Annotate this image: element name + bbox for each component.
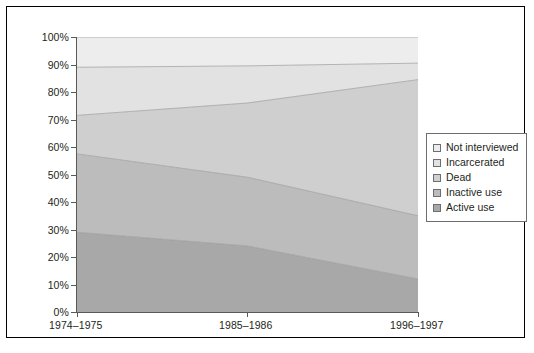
y-tick-label: 30% [29, 225, 69, 235]
legend-swatch-icon [433, 159, 441, 167]
legend-item-not-interviewed[interactable]: Not interviewed [433, 140, 518, 155]
x-tick-label: 1974–1975 [49, 319, 102, 331]
x-tick-label: 1985–1986 [219, 319, 272, 331]
legend-item-label: Dead [446, 172, 471, 183]
legend-swatch-icon [433, 144, 441, 152]
y-tick-mark [71, 312, 76, 313]
y-tick-mark [71, 120, 76, 121]
legend-item-label: Incarcerated [446, 157, 504, 168]
legend-item-label: Not interviewed [446, 142, 518, 153]
legend-item-incarcerated[interactable]: Incarcerated [433, 155, 518, 170]
stacked-area-svg [77, 37, 418, 312]
y-tick-mark [71, 230, 76, 231]
y-tick-mark [71, 65, 76, 66]
y-tick-label: 50% [29, 170, 69, 180]
x-tick-mark [247, 312, 248, 317]
y-tick-label: 100% [29, 32, 69, 42]
chart-figure: 100% 90% 80% 70% 60% 50% 40% 30% 20% 10%… [0, 0, 534, 353]
y-tick-mark [71, 202, 76, 203]
y-tick-label: 10% [29, 280, 69, 290]
chart-frame: 100% 90% 80% 70% 60% 50% 40% 30% 20% 10%… [6, 6, 525, 338]
legend-item-dead[interactable]: Dead [433, 170, 518, 185]
legend-swatch-icon [433, 174, 441, 182]
legend-item-label: Active use [446, 202, 494, 213]
y-tick-label: 60% [29, 142, 69, 152]
y-tick-label: 90% [29, 60, 69, 70]
chart-legend: Not interviewed Incarcerated Dead Inacti… [426, 133, 527, 222]
legend-swatch-icon [433, 189, 441, 197]
area-not-interviewed [77, 37, 418, 67]
y-axis-line [76, 37, 77, 313]
y-tick-mark [71, 257, 76, 258]
y-tick-mark [71, 175, 76, 176]
x-tick-mark [77, 312, 78, 317]
plot-area [77, 37, 418, 312]
legend-swatch-icon [433, 204, 441, 212]
x-tick-label: 1996–1997 [390, 319, 443, 331]
legend-item-label: Inactive use [446, 187, 502, 198]
legend-item-inactive-use[interactable]: Inactive use [433, 185, 518, 200]
x-tick-mark [418, 312, 419, 317]
legend-item-active-use[interactable]: Active use [433, 200, 518, 215]
y-tick-label: 70% [29, 115, 69, 125]
y-tick-mark [71, 147, 76, 148]
y-tick-label: 40% [29, 197, 69, 207]
y-tick-mark [71, 92, 76, 93]
y-tick-mark [71, 285, 76, 286]
y-tick-label: 80% [29, 87, 69, 97]
y-tick-label: 20% [29, 252, 69, 262]
y-tick-mark [71, 37, 76, 38]
y-tick-label: 0% [29, 307, 69, 317]
